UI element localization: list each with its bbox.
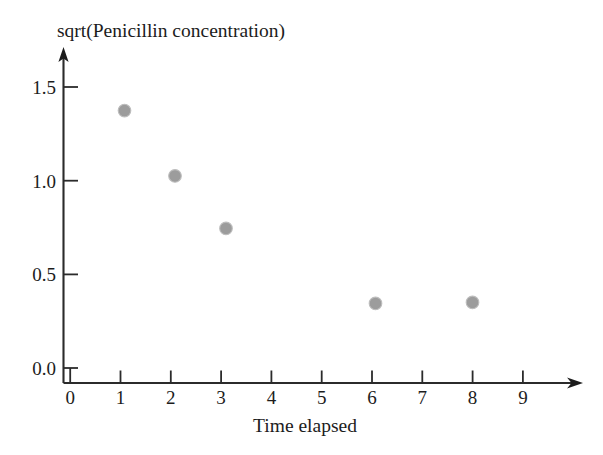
x-tick-label-2: 2 (166, 387, 176, 408)
x-tick-label-7: 7 (418, 387, 428, 408)
x-tick-label-4: 4 (267, 387, 277, 408)
x-tick-label-8: 8 (468, 387, 478, 408)
x-axis-title: Time elapsed (253, 415, 357, 436)
y-tick-label-0-5: 0.5 (32, 264, 56, 285)
data-point (118, 104, 131, 117)
y-tick-label-1-0: 1.0 (32, 171, 56, 192)
data-point (220, 222, 233, 235)
data-point (169, 170, 182, 183)
x-tick-label-0: 0 (65, 387, 75, 408)
y-tick-label-0-0: 0.0 (32, 358, 56, 379)
data-point (369, 297, 382, 310)
data-point-series (118, 104, 479, 309)
x-tick-label-9: 9 (518, 387, 528, 408)
scatter-plot-figure: 1.5 1.0 0.5 0.0 0 1 2 3 4 5 6 7 8 9 sqrt… (0, 0, 603, 455)
y-axis-title: sqrt(Penicillin concentration) (57, 20, 285, 42)
x-tick-label-5: 5 (317, 387, 327, 408)
y-tick-label-1-5: 1.5 (32, 77, 56, 98)
x-tick-label-1: 1 (116, 387, 126, 408)
plot-canvas: 1.5 1.0 0.5 0.0 0 1 2 3 4 5 6 7 8 9 sqrt… (0, 0, 603, 455)
data-point (466, 296, 479, 309)
x-tick-label-3: 3 (216, 387, 226, 408)
x-tick-label-6: 6 (367, 387, 377, 408)
